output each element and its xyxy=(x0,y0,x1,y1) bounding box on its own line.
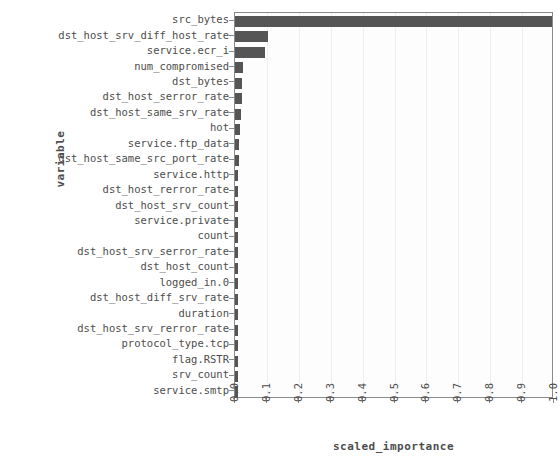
bar-row xyxy=(235,214,553,231)
bar xyxy=(235,170,238,181)
bar xyxy=(235,139,239,150)
x-axis-title: scaled_importance xyxy=(234,440,553,453)
bar-row xyxy=(235,291,553,308)
y-axis-tick-label: protocol_type.tcp xyxy=(122,338,229,349)
y-axis-tick-label: srv_count xyxy=(172,369,229,380)
bar xyxy=(235,340,238,351)
bar-series xyxy=(235,13,552,397)
y-axis-tick-label: dst_host_srv_diff_host_rate xyxy=(58,30,229,41)
x-axis-tick-label: 0.4 xyxy=(356,383,368,417)
y-axis-tick-label: dst_host_count xyxy=(140,261,229,272)
bar xyxy=(235,31,268,42)
bar xyxy=(235,109,241,120)
bar xyxy=(235,309,238,320)
y-axis-tick-label: dst_host_rerror_rate xyxy=(103,184,229,195)
bar-row xyxy=(235,229,553,246)
y-axis-tick-label: num_compromised xyxy=(134,61,229,72)
bar xyxy=(235,247,238,258)
bar xyxy=(235,263,238,274)
y-axis-tick-label: dst_host_diff_srv_rate xyxy=(90,292,229,303)
bar xyxy=(235,47,265,58)
bar-row xyxy=(235,75,553,92)
bar xyxy=(235,371,238,382)
bar-row xyxy=(235,260,553,277)
y-axis-tick-label: dst_bytes xyxy=(172,76,229,87)
bar-row xyxy=(235,167,553,184)
bar xyxy=(235,124,240,135)
x-axis-tick-label: 0.9 xyxy=(515,383,527,417)
bar-row xyxy=(235,137,553,154)
bar xyxy=(235,294,238,305)
y-axis-tick-label: hot xyxy=(210,122,229,133)
bar xyxy=(235,78,242,89)
bar xyxy=(235,325,238,336)
bar-row xyxy=(235,322,553,339)
y-axis-tick-label: dst_host_srv_count xyxy=(115,200,229,211)
bar-row xyxy=(235,183,553,200)
bar xyxy=(235,186,238,197)
x-axis-tick-label: 0.1 xyxy=(260,383,272,417)
x-axis-tick-label: 0.3 xyxy=(324,383,336,417)
bar-row xyxy=(235,245,553,262)
bar-row xyxy=(235,90,553,107)
bar-row xyxy=(235,275,553,292)
y-axis-tick-label: duration xyxy=(178,308,229,319)
y-axis-tick-label: logged_in.0 xyxy=(159,277,229,288)
y-axis-tick-label: dst_host_srv_rerror_rate xyxy=(77,323,229,334)
bar xyxy=(235,155,239,166)
y-axis-tick-label: count xyxy=(197,230,229,241)
y-axis-tick-label: dst_host_serror_rate xyxy=(103,91,229,102)
bar-row xyxy=(235,44,553,61)
bar xyxy=(235,201,238,212)
bar-row xyxy=(235,353,553,370)
bar xyxy=(235,16,553,27)
bar xyxy=(235,62,243,73)
x-axis-tick-label: 0.2 xyxy=(292,383,304,417)
bar-row xyxy=(235,106,553,123)
y-axis-tick-label: dst_host_srv_serror_rate xyxy=(77,246,229,257)
y-axis-tick-label: service.http xyxy=(153,169,229,180)
bar xyxy=(235,356,238,367)
y-axis-tick-label: src_bytes xyxy=(172,14,229,25)
plot-area xyxy=(234,12,553,398)
variable-importance-chart: variable src_bytesdst_host_srv_diff_host… xyxy=(0,0,560,465)
bar-row xyxy=(235,121,553,138)
x-axis-tick-label: 0.7 xyxy=(451,383,463,417)
x-axis-tick-label: 0.6 xyxy=(419,383,431,417)
bar xyxy=(235,93,242,104)
bar xyxy=(235,278,238,289)
x-axis-tick-label: 0.5 xyxy=(388,383,400,417)
y-axis-tick-label: dst_host_same_src_port_rate xyxy=(58,153,229,164)
bar xyxy=(235,232,238,243)
x-axis-tick-label: 1.0 xyxy=(547,383,559,417)
y-axis-tick-label: dst_host_same_srv_rate xyxy=(90,107,229,118)
bar-row xyxy=(235,13,553,30)
y-axis-tick-label: service.ftp_data xyxy=(128,138,229,149)
bar-row xyxy=(235,337,553,354)
bar-row xyxy=(235,198,553,215)
bar-row xyxy=(235,152,553,169)
bar-row xyxy=(235,306,553,323)
bar xyxy=(235,217,238,228)
y-axis-tick-label: service.private xyxy=(134,215,229,226)
x-axis-tick-label: 0.0 xyxy=(228,383,240,417)
bar-row xyxy=(235,59,553,76)
y-axis-tick-label: flag.RSTR xyxy=(172,354,229,365)
x-axis-tick-label: 0.8 xyxy=(483,383,495,417)
y-axis-tick-label: service.ecr_i xyxy=(147,45,229,56)
bar-row xyxy=(235,28,553,45)
y-axis-tick-label: service.smtp xyxy=(153,385,229,396)
